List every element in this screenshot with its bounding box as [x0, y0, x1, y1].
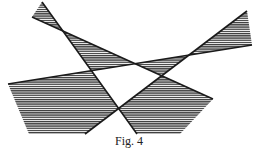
figure-caption: Fig. 4 — [0, 134, 258, 148]
line-L4 — [8, 45, 252, 84]
geometry-figure — [0, 0, 258, 151]
shaded-region-top-left-wedge — [32, 2, 63, 31]
shaded-regions — [8, 2, 252, 134]
shaded-region-bottom-right-polygon — [119, 76, 213, 134]
shaded-region-center-right-band — [135, 55, 189, 76]
shaded-region-bottom-left-polygon — [8, 71, 119, 134]
